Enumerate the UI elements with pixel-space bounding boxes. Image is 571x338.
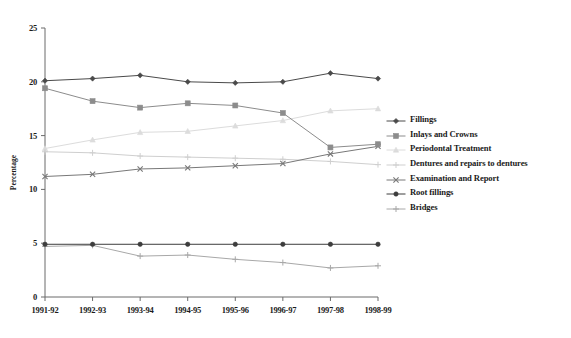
y-tick-label: 20 <box>15 77 37 87</box>
chart-svg <box>0 0 390 338</box>
legend-item-root-fillings[interactable]: Root fillings <box>386 185 571 200</box>
x-tick-label: 1995-96 <box>208 305 262 315</box>
data-point-marker <box>393 162 399 168</box>
data-point-marker <box>327 158 333 164</box>
series-line <box>45 245 378 268</box>
legend-label: Fillings <box>410 114 436 124</box>
data-point-marker <box>42 78 47 83</box>
data-point-marker <box>328 71 333 76</box>
data-point-marker <box>138 242 142 246</box>
data-point-marker <box>185 101 190 106</box>
data-point-marker <box>138 105 143 110</box>
series-fillings <box>42 71 380 86</box>
legend-item-inlays-and-crowns[interactable]: Inlays and Crowns <box>386 127 571 142</box>
y-axis-title: Percentage <box>9 138 18 208</box>
data-point-marker <box>376 142 381 147</box>
legend-marker-cross-plus-icon <box>386 157 406 169</box>
legend-marker-circle-icon <box>386 186 406 198</box>
legend-item-bridges[interactable]: Bridges <box>386 200 571 215</box>
data-point-marker <box>43 242 47 246</box>
series-line <box>45 109 378 149</box>
data-point-marker <box>185 79 190 84</box>
series-periodontal-treatment <box>42 106 380 151</box>
data-point-marker <box>138 73 143 78</box>
legend-marker-x-mark-icon <box>386 172 406 184</box>
data-point-marker <box>280 79 285 84</box>
data-point-marker <box>185 252 191 258</box>
legend-item-periodontal-treatment[interactable]: Periodontal Treatment <box>386 141 571 156</box>
data-point-marker <box>43 86 48 91</box>
x-tick-label: 1994-95 <box>161 305 215 315</box>
y-tick-label: 10 <box>15 184 37 194</box>
x-tick-label: 1993-94 <box>113 305 167 315</box>
x-tick-label: 1996-97 <box>256 305 310 315</box>
data-point-marker <box>376 242 380 246</box>
data-point-marker <box>280 111 285 116</box>
chart-root: Percentage 0510152025 1991-921992-931993… <box>0 0 571 338</box>
legend-marker-square-icon <box>386 128 406 140</box>
x-tick-label: 1997-98 <box>303 305 357 315</box>
data-point-marker <box>375 263 381 269</box>
series-root-fillings <box>43 242 380 246</box>
legend-marker-triangle-icon <box>386 142 406 154</box>
data-point-marker <box>281 242 285 246</box>
data-point-marker <box>90 150 96 156</box>
data-point-marker <box>185 154 191 160</box>
y-tick-label: 5 <box>15 238 37 248</box>
legend-label: Root fillings <box>410 187 453 197</box>
legend-label: Examination and Report <box>410 173 499 183</box>
y-tick-label: 0 <box>15 292 37 302</box>
y-tick-label: 25 <box>15 23 37 33</box>
data-point-marker <box>375 76 380 81</box>
data-point-marker <box>280 260 286 266</box>
data-point-marker <box>233 242 237 246</box>
data-point-marker <box>232 155 238 161</box>
data-point-marker <box>233 103 238 108</box>
legend-label: Dentures and repairs to dentures <box>410 158 528 168</box>
series-dentures-and-repairs-to-dentures <box>42 149 381 168</box>
data-point-marker <box>90 99 95 104</box>
data-point-marker <box>137 253 143 259</box>
chart-plot-area: Percentage 0510152025 1991-921992-931993… <box>0 0 390 338</box>
data-point-marker <box>394 133 399 138</box>
data-point-marker <box>137 153 143 159</box>
legend-marker-cross-plus-icon <box>386 201 406 213</box>
chart-legend: FillingsInlays and CrownsPeriodontal Tre… <box>386 112 571 214</box>
data-point-marker <box>232 256 238 262</box>
data-point-marker <box>90 76 95 81</box>
data-point-marker <box>328 242 332 246</box>
data-point-marker <box>90 242 94 246</box>
data-point-marker <box>393 119 398 124</box>
legend-item-fillings[interactable]: Fillings <box>386 112 571 127</box>
legend-marker-diamond-icon <box>386 113 406 125</box>
legend-label: Periodontal Treatment <box>410 143 491 153</box>
y-tick-label: 15 <box>15 131 37 141</box>
x-tick-label: 1992-93 <box>66 305 120 315</box>
data-point-marker <box>394 192 398 196</box>
data-point-marker <box>186 242 190 246</box>
data-point-marker <box>328 145 333 150</box>
legend-item-examination-and-report[interactable]: Examination and Report <box>386 170 571 185</box>
x-tick-label: 1998-99 <box>351 305 405 315</box>
legend-label: Bridges <box>410 202 437 212</box>
data-point-marker <box>375 162 381 168</box>
data-point-marker <box>233 80 238 85</box>
legend-item-dentures-and-repairs-to-dentures[interactable]: Dentures and repairs to dentures <box>386 156 571 171</box>
data-point-marker <box>327 265 333 271</box>
data-point-marker <box>393 206 399 212</box>
x-tick-label: 1991-92 <box>18 305 72 315</box>
legend-label: Inlays and Crowns <box>410 129 477 139</box>
series-line <box>45 88 378 147</box>
series-line <box>45 152 378 165</box>
